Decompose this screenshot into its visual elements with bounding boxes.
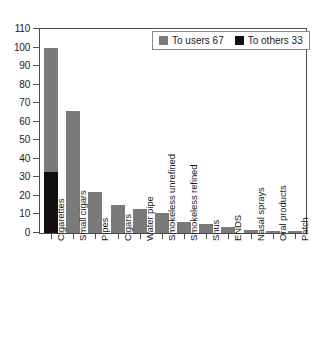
y-axis-tick-label: 110 — [15, 23, 30, 34]
y-axis-tick-label: 90 — [19, 60, 30, 71]
x-axis-tick-mark — [73, 234, 74, 239]
x-axis-tick-label: Patch — [299, 217, 310, 241]
x-axis-tick-mark — [162, 234, 163, 239]
y-axis-tick-label: 20 — [19, 189, 30, 200]
x-axis-tick-mark — [118, 234, 119, 239]
x-axis-tick-mark — [95, 234, 96, 239]
bar-group — [88, 29, 102, 233]
x-axis-tick-label: Water pipe — [144, 196, 155, 241]
legend-entry: To others 33 — [235, 35, 303, 46]
bar-group — [221, 29, 235, 233]
bar-chart: 0102030405060708090100110 CigarettesSmal… — [0, 0, 322, 354]
x-axis-tick-mark — [295, 234, 296, 239]
x-axis-tick-mark — [184, 234, 185, 239]
bar-segment-to-users — [44, 48, 58, 172]
y-axis-tick-label: 70 — [19, 97, 30, 108]
x-axis-tick-label: Smokeless unrefined — [166, 154, 177, 241]
y-axis-tick-label: 50 — [19, 134, 30, 145]
x-axis-tick-mark — [51, 234, 52, 239]
legend-color-swatch — [159, 36, 168, 45]
y-axis-tick-label: 100 — [14, 41, 30, 52]
x-axis-tick-mark — [273, 234, 274, 239]
x-axis-tick-label: ENDS — [232, 215, 243, 241]
x-axis-tick-label: Pipes — [99, 218, 110, 241]
y-axis-tick-label: 60 — [19, 115, 30, 126]
x-axis-tick-label: Cigars — [122, 214, 133, 241]
x-axis-tick-mark — [251, 234, 252, 239]
x-axis-tick-label: Smokeless refined — [188, 165, 199, 241]
y-axis-tick-labels: 0102030405060708090100110 — [0, 28, 30, 234]
x-axis-tick-label: Small cigars — [77, 190, 88, 241]
y-axis-tick-label: 10 — [19, 208, 30, 219]
legend-color-swatch — [235, 36, 244, 45]
y-axis-tick-label: 0 — [25, 227, 30, 238]
x-axis-tick-label: Oral products — [277, 185, 288, 241]
chart-legend: To users 67To others 33 — [152, 31, 310, 50]
x-axis-tick-label: Snus — [210, 220, 221, 241]
x-axis-tick-mark — [206, 234, 207, 239]
x-axis-tick-label: Cigarettes — [55, 199, 66, 241]
y-axis-tick-label: 40 — [19, 152, 30, 163]
x-axis-tick-labels: CigarettesSmall cigarsPipesCigarsWater p… — [40, 241, 306, 353]
y-axis-tick-label: 80 — [19, 78, 30, 89]
y-axis-tick-label: 30 — [19, 171, 30, 182]
x-axis-tick-mark — [140, 234, 141, 239]
legend-label: To users 67 — [172, 35, 224, 46]
x-axis-tick-mark — [228, 234, 229, 239]
bar-group — [288, 29, 302, 233]
bar-group — [199, 29, 213, 233]
legend-entry: To users 67 — [159, 35, 224, 46]
bar-group — [111, 29, 125, 233]
y-axis-tick-marks — [32, 28, 39, 234]
legend-label: To others 33 — [248, 35, 303, 46]
x-axis-tick-label: Nasal sprays — [255, 187, 266, 241]
